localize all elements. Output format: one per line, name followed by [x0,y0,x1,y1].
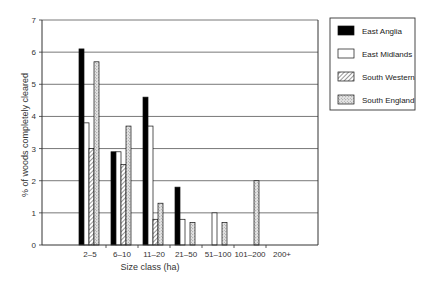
legend-swatch [338,26,354,35]
bar-east-anglia [175,187,180,245]
legend-label: East Anglia [362,27,403,36]
legend-swatch [338,72,354,81]
bars [79,49,259,245]
x-tick-labels: 2–56–1011–2021–5051–100101–200200+ [83,250,291,259]
y-tick-label: 5 [32,80,37,89]
bar-south-england [254,181,259,245]
x-tick-label: 11–20 [143,250,165,259]
legend: East AngliaEast MidlandsSouth WesternSou… [330,18,415,110]
bar-south-england [126,126,131,245]
x-tick-label: 2–5 [83,250,97,259]
y-axis-title: % of woods completely cleared [20,73,30,197]
x-tick-label: 6–10 [113,250,131,259]
y-tick-label: 7 [32,16,37,25]
bar-east-midlands [116,152,121,245]
y-tick-label: 0 [32,241,37,250]
x-axis-title: Size class (ha) [120,262,179,272]
bar-east-midlands [148,126,153,245]
bar-east-anglia [111,152,116,245]
bar-south-england [190,223,195,246]
bar-south-western [153,219,158,245]
bar-east-anglia [143,97,148,245]
legend-label: East Midlands [362,50,412,59]
x-tick-label: 51–100 [205,250,232,259]
bar-south-england [94,62,99,245]
bar-east-anglia [79,49,84,245]
bar-south-england [222,223,227,246]
bar-east-midlands [180,219,185,245]
bar-east-midlands [212,213,217,245]
x-tick-label: 101–200 [234,250,266,259]
bar-south-western [89,149,94,245]
bar-east-midlands [84,123,89,245]
y-tick-label: 6 [32,48,37,57]
bar-south-western [121,165,126,245]
y-tick-label: 2 [32,177,37,186]
y-tick-label: 1 [32,209,37,218]
legend-label: South England [362,96,415,105]
bar-chart: 01234567 2–56–1011–2021–5051–100101–2002… [0,0,442,286]
y-tick-label: 4 [32,112,37,121]
y-tick-label: 3 [32,145,37,154]
x-tick-label: 200+ [273,250,291,259]
legend-swatch [338,49,354,58]
bar-south-england [158,203,163,245]
x-tick-label: 21–50 [175,250,198,259]
y-tick-labels: 01234567 [32,16,37,250]
legend-swatch [338,95,354,104]
legend-label: South Western [362,73,415,82]
